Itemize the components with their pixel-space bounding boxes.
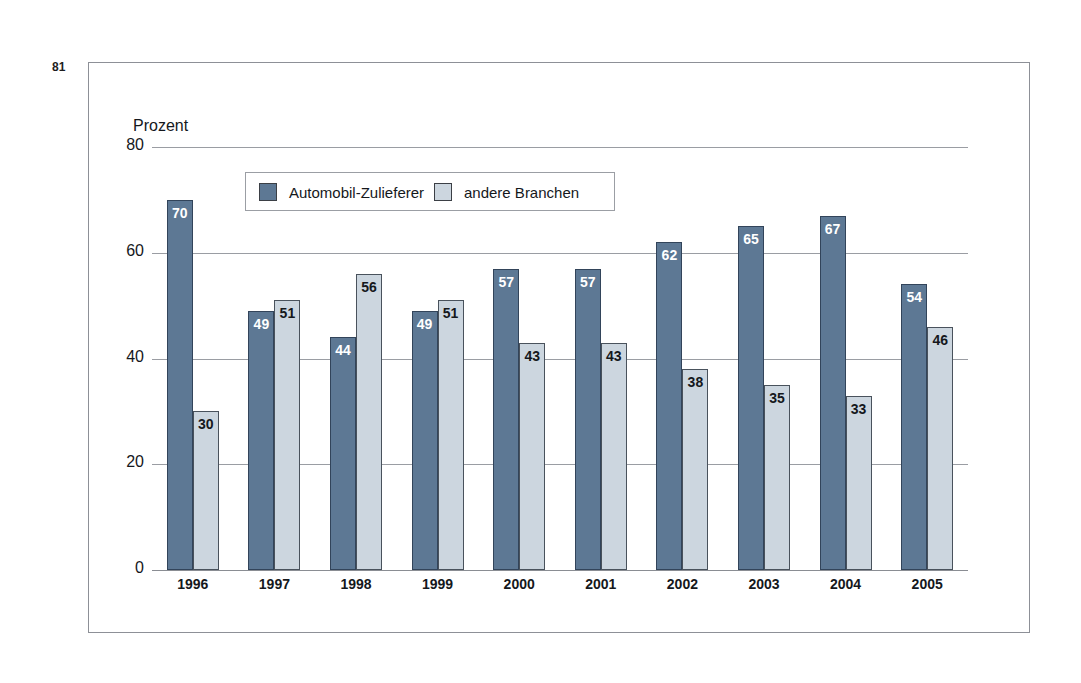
legend-label-series-0: Automobil-Zulieferer bbox=[289, 184, 424, 201]
legend-swatch-icon-series-0 bbox=[259, 183, 277, 201]
bar-2001-series-0 bbox=[575, 269, 601, 570]
bar-value-label-2003-series-0: 65 bbox=[738, 231, 764, 247]
y-tick-label-80: 80 bbox=[104, 136, 144, 154]
bar-1999-series-1 bbox=[438, 300, 464, 570]
bar-2000-series-1 bbox=[519, 343, 545, 570]
legend-swatch-icon-series-1 bbox=[434, 183, 452, 201]
bar-value-label-1997-series-1: 51 bbox=[274, 305, 300, 321]
bar-value-label-1997-series-0: 49 bbox=[248, 316, 274, 332]
y-tick-label-40: 40 bbox=[104, 348, 144, 366]
chart-legend: Automobil-Zulieferer andere Branchen bbox=[245, 172, 615, 211]
x-tick-label-1997: 1997 bbox=[238, 576, 310, 592]
y-tick-label-20: 20 bbox=[104, 453, 144, 471]
page-canvas: 81 Prozent 020406080 Automobil-Zuliefere… bbox=[0, 0, 1081, 683]
bar-1997-series-1 bbox=[274, 300, 300, 570]
gridline-60 bbox=[152, 253, 968, 254]
bar-1998-series-1 bbox=[356, 274, 382, 570]
y-tick-label-0: 0 bbox=[104, 559, 144, 577]
bar-value-label-2005-series-0: 54 bbox=[901, 289, 927, 305]
bar-1996-series-0 bbox=[167, 200, 193, 570]
bar-value-label-1998-series-1: 56 bbox=[356, 279, 382, 295]
x-tick-label-2000: 2000 bbox=[483, 576, 555, 592]
x-tick-label-2001: 2001 bbox=[565, 576, 637, 592]
x-tick-label-2003: 2003 bbox=[728, 576, 800, 592]
bar-chart: Prozent 020406080 Automobil-Zulieferer a… bbox=[0, 0, 1081, 683]
x-tick-label-1999: 1999 bbox=[402, 576, 474, 592]
bar-value-label-1999-series-1: 51 bbox=[438, 305, 464, 321]
bar-2002-series-1 bbox=[682, 369, 708, 570]
bar-value-label-1996-series-1: 30 bbox=[193, 416, 219, 432]
x-tick-label-2004: 2004 bbox=[810, 576, 882, 592]
bar-2004-series-0 bbox=[820, 216, 846, 570]
bar-value-label-2001-series-0: 57 bbox=[575, 274, 601, 290]
x-tick-label-2005: 2005 bbox=[891, 576, 963, 592]
legend-label-series-1: andere Branchen bbox=[464, 184, 579, 201]
bar-1998-series-0 bbox=[330, 337, 356, 570]
bar-value-label-2001-series-1: 43 bbox=[601, 348, 627, 364]
bar-2000-series-0 bbox=[493, 269, 519, 570]
bar-value-label-1996-series-0: 70 bbox=[167, 205, 193, 221]
bar-1996-series-1 bbox=[193, 411, 219, 570]
gridline-0 bbox=[152, 570, 968, 571]
bar-value-label-2003-series-1: 35 bbox=[764, 390, 790, 406]
bar-value-label-2002-series-0: 62 bbox=[656, 247, 682, 263]
bar-value-label-2000-series-1: 43 bbox=[519, 348, 545, 364]
bar-value-label-2004-series-0: 67 bbox=[820, 221, 846, 237]
bar-2005-series-1 bbox=[927, 327, 953, 570]
bar-value-label-2005-series-1: 46 bbox=[927, 332, 953, 348]
legend-entry-automobil-zulieferer: Automobil-Zulieferer bbox=[259, 182, 424, 202]
gridline-80 bbox=[152, 147, 968, 148]
bar-value-label-1998-series-0: 44 bbox=[330, 342, 356, 358]
bar-2003-series-1 bbox=[764, 385, 790, 570]
x-tick-label-2002: 2002 bbox=[646, 576, 718, 592]
bar-2004-series-1 bbox=[846, 396, 872, 570]
bar-value-label-2002-series-1: 38 bbox=[682, 374, 708, 390]
y-tick-label-60: 60 bbox=[104, 242, 144, 260]
legend-entry-andere-branchen: andere Branchen bbox=[434, 182, 579, 202]
bar-2005-series-0 bbox=[901, 284, 927, 570]
x-tick-label-1996: 1996 bbox=[157, 576, 229, 592]
bar-1999-series-0 bbox=[412, 311, 438, 570]
bar-2001-series-1 bbox=[601, 343, 627, 570]
bar-value-label-2004-series-1: 33 bbox=[846, 401, 872, 417]
y-axis-title: Prozent bbox=[133, 117, 188, 135]
bar-value-label-2000-series-0: 57 bbox=[493, 274, 519, 290]
bar-1997-series-0 bbox=[248, 311, 274, 570]
x-tick-label-1998: 1998 bbox=[320, 576, 392, 592]
bar-value-label-1999-series-0: 49 bbox=[412, 316, 438, 332]
bar-2003-series-0 bbox=[738, 226, 764, 570]
bar-2002-series-0 bbox=[656, 242, 682, 570]
